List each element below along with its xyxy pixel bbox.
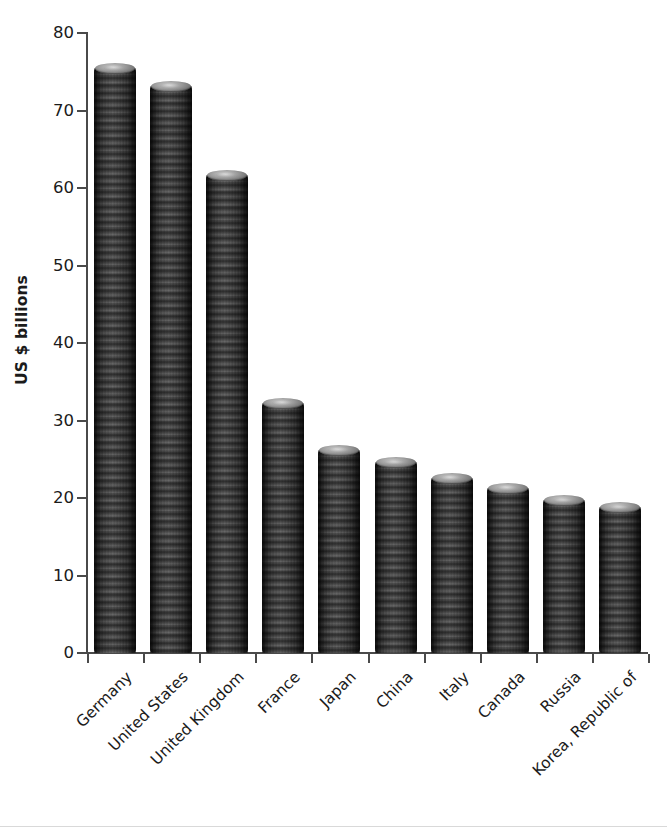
- y-axis-tick-label: 0: [64, 642, 75, 664]
- x-axis-tick-label: China: [372, 668, 416, 712]
- bar: [206, 170, 248, 653]
- x-axis-tick-label: France: [255, 668, 304, 717]
- y-axis-tick-mark: [77, 32, 86, 34]
- bar-top-coin-face: [263, 398, 303, 409]
- bar-coin-stack-body: [150, 86, 192, 653]
- x-axis-tick-mark: [536, 654, 538, 663]
- y-axis-tick-label: 30: [53, 410, 74, 432]
- x-axis-tick-mark: [592, 654, 594, 663]
- y-axis-tick-label: 40: [53, 332, 74, 354]
- x-axis-tick-mark: [87, 654, 89, 663]
- y-axis-tick-label: 10: [53, 565, 74, 587]
- bar: [487, 483, 529, 653]
- y-axis-tick-label: 70: [53, 100, 74, 122]
- y-axis-tick-mark: [77, 342, 86, 344]
- y-axis-tick-label: 60: [53, 177, 74, 199]
- x-axis-tick-mark: [648, 654, 650, 663]
- x-axis-tick-mark: [311, 654, 313, 663]
- y-axis-tick-mark: [77, 575, 86, 577]
- y-axis-title-text: US $ billions: [13, 275, 31, 385]
- x-axis-tick-label: Russia: [537, 668, 585, 716]
- bar-top-coin-face: [432, 473, 472, 484]
- y-axis-tick-mark: [77, 187, 86, 189]
- bar-coin-stack-body: [543, 500, 585, 653]
- x-axis-tick-label: Korea, Republic of: [529, 668, 641, 780]
- bar-coin-stack-body: [206, 175, 248, 653]
- bar: [375, 457, 417, 653]
- y-axis-line: [86, 32, 88, 654]
- bar: [262, 398, 304, 653]
- bar-coin-stack-body: [262, 403, 304, 653]
- bar: [94, 63, 136, 653]
- bar-top-coin-face: [319, 445, 359, 456]
- bar-coin-stack-body: [599, 507, 641, 653]
- y-axis-tick-mark: [77, 497, 86, 499]
- y-axis-tick-label: 80: [53, 22, 74, 44]
- y-axis-tick-mark: [77, 265, 86, 267]
- y-axis-tick-mark: [77, 110, 86, 112]
- x-axis-tick-mark: [368, 654, 370, 663]
- bar-top-coin-face: [95, 63, 135, 74]
- bar-coin-stack-body: [375, 462, 417, 653]
- x-axis-tick-mark: [143, 654, 145, 663]
- x-axis-tick-mark: [480, 654, 482, 663]
- x-axis-tick-mark: [199, 654, 201, 663]
- x-axis-tick-label: Canada: [474, 668, 528, 722]
- y-axis-tick-mark: [77, 420, 86, 422]
- bar-coin-stack-body: [94, 68, 136, 653]
- bar-top-coin-face: [488, 483, 528, 494]
- bar-coin-stack-body: [318, 450, 360, 653]
- x-axis-tick-mark: [255, 654, 257, 663]
- chart-container: US $ billions 01020304050607080 GermanyU…: [0, 0, 667, 827]
- bar-top-coin-face: [151, 81, 191, 92]
- bar: [599, 502, 641, 653]
- y-axis-tick-mark: [77, 652, 86, 654]
- y-axis-tick-label: 50: [53, 255, 74, 277]
- bar-top-coin-face: [207, 170, 247, 181]
- bar-coin-stack-body: [487, 488, 529, 653]
- y-axis-tick-label: 20: [53, 487, 74, 509]
- x-axis-tick-label: Italy: [436, 668, 473, 705]
- bar: [431, 473, 473, 653]
- bar-coin-stack-body: [431, 478, 473, 653]
- bar: [543, 495, 585, 653]
- y-axis-title: US $ billions: [0, 0, 44, 660]
- x-axis-tick-mark: [424, 654, 426, 663]
- x-axis-tick-label: Japan: [317, 668, 360, 711]
- bar: [150, 81, 192, 653]
- bar: [318, 445, 360, 653]
